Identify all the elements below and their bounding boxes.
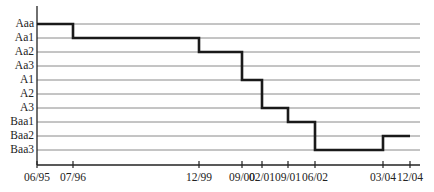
rating-series-line xyxy=(37,24,410,150)
x-tick-label: 03/04 xyxy=(370,171,396,183)
y-tick-label: Aaa xyxy=(15,17,34,29)
y-tick-label: A3 xyxy=(20,101,34,113)
y-tick-label: A2 xyxy=(20,87,34,99)
y-tick-label: Aa2 xyxy=(15,45,34,57)
y-tick-label: Aa3 xyxy=(15,59,34,71)
x-tick-label: 09/01 xyxy=(275,171,301,183)
x-tick-label: 12/04 xyxy=(397,171,423,183)
y-tick-label: A1 xyxy=(20,73,34,85)
x-tick-label: 02/01 xyxy=(249,171,275,183)
x-tick-label: 06/95 xyxy=(24,171,50,183)
y-tick-label: Aa1 xyxy=(15,31,34,43)
rating-step-chart: AaaAa1Aa2Aa3A1A2A3Baa1Baa2Baa3 06/9507/9… xyxy=(0,0,434,192)
y-tick-label: Baa2 xyxy=(10,129,34,141)
y-tick-label: Baa1 xyxy=(10,115,34,127)
x-tick-label: 07/96 xyxy=(60,171,86,183)
chart-canvas xyxy=(0,0,434,192)
x-tick-label: 12/99 xyxy=(186,171,212,183)
x-tick-label: 06/02 xyxy=(302,171,328,183)
y-tick-label: Baa3 xyxy=(10,143,34,155)
